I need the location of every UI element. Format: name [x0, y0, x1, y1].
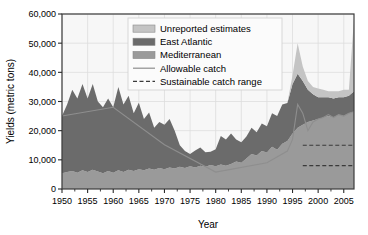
x-tick-label: 1970	[154, 196, 174, 206]
x-tick-label: 1960	[103, 196, 123, 206]
y-tick-label: 20,000	[28, 126, 56, 136]
legend-label: Mediterranean	[160, 49, 221, 60]
y-tick-label: 10,000	[28, 155, 56, 165]
legend-label: East Atlantic	[160, 36, 213, 47]
yields-area-chart: 010,00020,00030,00040,00050,00060,000 19…	[0, 0, 368, 235]
legend-swatch	[133, 38, 155, 45]
legend-label: Unreported estimates	[160, 23, 251, 34]
x-tick-label: 1985	[231, 196, 251, 206]
x-tick-label: 2000	[308, 196, 328, 206]
y-tick-label: 60,000	[28, 9, 56, 19]
x-tick-label: 1950	[52, 196, 72, 206]
x-tick-label: 1980	[206, 196, 226, 206]
x-tick-label: 1965	[129, 196, 149, 206]
y-axis-title: Yields (metric tons)	[5, 59, 16, 144]
x-tick-label: 1955	[78, 196, 98, 206]
legend-swatch	[133, 51, 155, 58]
y-tick-label: 30,000	[28, 97, 56, 107]
x-tick-label: 1975	[180, 196, 200, 206]
x-tick-label: 2005	[334, 196, 354, 206]
y-tick-label: 40,000	[28, 68, 56, 78]
x-tick-label: 1990	[257, 196, 277, 206]
x-axis-title: Year	[198, 219, 219, 230]
y-tick-label: 0	[51, 184, 56, 194]
x-tick-label: 1995	[283, 196, 303, 206]
legend-label: Sustainable catch range	[160, 76, 262, 87]
y-tick-label: 50,000	[28, 39, 56, 49]
legend-label: Allowable catch	[160, 63, 226, 74]
chart-legend: Unreported estimatesEast AtlanticMediter…	[128, 18, 282, 90]
legend-swatch	[133, 25, 155, 32]
